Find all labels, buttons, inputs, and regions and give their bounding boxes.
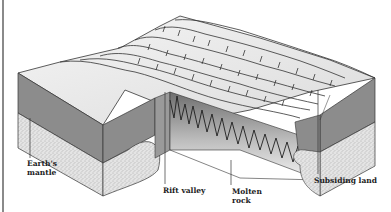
label-earths-mantle-line2: mantle xyxy=(27,168,57,177)
label-earths-mantle: Earth's mantle xyxy=(27,159,57,177)
label-molten-rock-line1: Molten xyxy=(232,187,262,196)
label-rift-valley-text: Rift valley xyxy=(163,186,205,195)
label-earths-mantle-line1: Earth's xyxy=(27,159,57,168)
label-rift-valley: Rift valley xyxy=(163,186,205,195)
label-molten-rock-line2: rock xyxy=(232,196,262,205)
label-molten-rock: Molten rock xyxy=(232,187,262,205)
label-subsiding-land-text: Subsiding land xyxy=(314,176,377,185)
label-subsiding-land: Subsiding land xyxy=(314,176,377,185)
diagram-frame: Earth's mantle Rift valley Molten rock S… xyxy=(0,0,391,212)
